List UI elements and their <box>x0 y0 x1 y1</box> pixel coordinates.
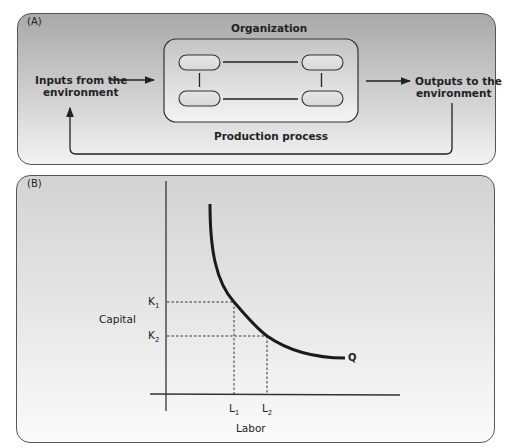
production-process-box <box>164 39 358 122</box>
x-axis <box>150 394 400 395</box>
panel-a-label: (A) <box>27 16 42 28</box>
process-node-bottom-left <box>179 91 220 106</box>
diagram-graphics <box>0 0 507 448</box>
x-axis-label: Labor <box>236 422 266 434</box>
y-axis-label: Capital <box>99 313 136 325</box>
tick-l1: L1 <box>229 402 239 416</box>
outputs-label-line1: Outputs to the <box>415 75 502 87</box>
production-process-caption: Production process <box>214 130 328 142</box>
inputs-label-line2: environment <box>43 86 118 98</box>
panel-b-label: (B) <box>27 178 42 190</box>
tick-k2: K2 <box>148 329 159 343</box>
process-node-top-left <box>179 55 220 70</box>
isoquant-curve-q <box>210 204 345 358</box>
curve-label-q: Q <box>348 352 357 364</box>
process-node-top-right <box>302 55 343 70</box>
organization-title: Organization <box>231 22 307 34</box>
tick-l2: L2 <box>262 402 272 416</box>
tick-k1: K1 <box>148 295 159 309</box>
inputs-label-line1: Inputs from the <box>35 74 127 86</box>
process-node-bottom-right <box>302 91 343 106</box>
outputs-label-line2: environment <box>416 87 491 99</box>
